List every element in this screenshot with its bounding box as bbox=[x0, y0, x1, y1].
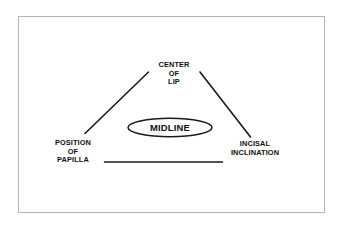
diagram-canvas: CENTER OF LIP POSITION OF PAPILLA INCISA… bbox=[0, 0, 344, 231]
diagram-connectors bbox=[0, 0, 344, 231]
node-label-incisal-inclination: INCISAL INCLINATION bbox=[231, 140, 279, 157]
midline-node: MIDLINE bbox=[127, 118, 213, 137]
midline-label: MIDLINE bbox=[127, 118, 213, 137]
node-label-center-of-lip: CENTER OF LIP bbox=[159, 61, 190, 87]
node-label-position-of-papilla: POSITION OF PAPILLA bbox=[55, 139, 91, 165]
